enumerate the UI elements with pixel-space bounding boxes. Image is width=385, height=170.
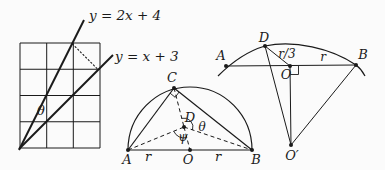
label-r-left-fig2: r [145, 149, 152, 164]
label-r-over-3-fig3: r/3 [278, 47, 296, 61]
label-psi-fig2: ψ [178, 130, 188, 144]
dotted-distance-segment [73, 44, 99, 70]
label-r-fig3: r [320, 50, 327, 64]
point-C-fig2 [172, 86, 176, 90]
label-A-fig3: A [215, 48, 225, 63]
label-O-fig3: O [281, 67, 292, 82]
figure-lines-on-grid: y = 2x + 4 y = x + 3 θ [19, 7, 179, 150]
label-theta-fig2: θ [198, 120, 206, 134]
figure-arc-sector: A D B O O′ r/3 r [215, 30, 367, 163]
label-D-fig3: D [258, 30, 270, 45]
equation-label-line1: y = 2x + 4 [88, 7, 161, 23]
dashed-DB [184, 127, 252, 150]
label-r-right-fig2: r [215, 149, 222, 164]
right-angle-mark-at-C [170, 92, 179, 97]
point-A-fig3 [224, 64, 228, 68]
dashed-CD [174, 88, 184, 127]
label-C-fig2: C [167, 70, 177, 85]
figure-semicircle: C D θ ψ A B O r r [121, 70, 260, 167]
line-y-equals-2x-plus-4 [19, 20, 84, 150]
label-O-fig2: O [183, 152, 194, 167]
label-A-fig2: A [121, 152, 131, 167]
point-D-fig2 [182, 125, 186, 129]
segment-Oprime-B [291, 65, 356, 145]
equation-label-line2: y = x + 3 [114, 48, 179, 64]
label-D-fig2: D [184, 110, 196, 125]
geometry-diagrams: y = 2x + 4 y = x + 3 θ C D θ ψ A B [0, 0, 385, 170]
right-angle-mark-at-O [291, 66, 299, 75]
point-B-fig3 [354, 63, 358, 67]
point-Oprime-fig3 [289, 143, 293, 147]
diagram-canvas: y = 2x + 4 y = x + 3 θ C D θ ψ A B [0, 0, 385, 170]
grid [20, 43, 100, 148]
theta-angle-label-fig1: θ [37, 103, 45, 118]
label-B-fig3: B [357, 47, 368, 62]
label-B-fig2: B [250, 152, 261, 167]
label-Oprime-fig3: O′ [285, 148, 299, 163]
